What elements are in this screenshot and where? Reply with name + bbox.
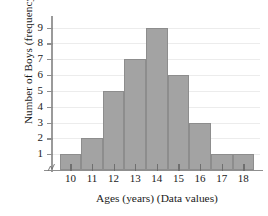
y-axis-tick — [47, 28, 53, 29]
y-axis-tick-label: 2 — [29, 132, 43, 143]
x-axis-tick — [178, 164, 179, 171]
histogram-bar — [189, 123, 211, 171]
x-axis-tick-label: 14 — [146, 173, 168, 184]
x-axis-tick-label: 13 — [124, 173, 146, 184]
y-axis-tick — [47, 59, 53, 60]
x-axis-tick — [135, 164, 136, 171]
x-axis-tick — [157, 164, 158, 171]
histogram-bar — [124, 59, 146, 170]
x-axis-tick — [243, 164, 244, 171]
y-axis-tick-label: 4 — [29, 101, 43, 112]
y-axis-tick — [47, 138, 53, 139]
histogram-bar — [103, 91, 125, 170]
bars-layer — [52, 18, 260, 170]
plot-area — [52, 18, 260, 170]
y-axis-tick — [47, 91, 53, 92]
x-axis-tick — [200, 164, 201, 171]
x-axis-tick-label: 15 — [167, 173, 189, 184]
histogram-chart: Number of Boys (frequency) Ages (years) … — [0, 0, 268, 216]
x-axis-title: Ages (years) (Data values) — [52, 192, 262, 204]
x-axis-tick-label: 11 — [81, 173, 103, 184]
y-axis-tick-label: 5 — [29, 85, 43, 96]
y-axis-tick — [47, 75, 53, 76]
y-axis-tick-label: 8 — [29, 37, 43, 48]
x-axis-tick — [114, 164, 115, 171]
y-axis-tick-label: 3 — [29, 117, 43, 128]
y-axis-tick — [47, 107, 53, 108]
x-axis-tick-label: 16 — [189, 173, 211, 184]
y-axis-tick — [47, 123, 53, 124]
histogram-bar — [146, 28, 168, 171]
x-axis-tick-label: 17 — [211, 173, 233, 184]
y-axis-tick-label: 7 — [29, 53, 43, 64]
x-axis-tick-label: 12 — [103, 173, 125, 184]
y-axis-tick-label: 6 — [29, 69, 43, 80]
x-axis-tick-label: 10 — [59, 173, 81, 184]
y-axis-tick — [47, 43, 53, 44]
y-axis-tick-label: 1 — [29, 148, 43, 159]
x-axis-tick-label: 18 — [232, 173, 254, 184]
x-axis-tick — [92, 164, 93, 171]
y-axis-tick — [47, 154, 53, 155]
histogram-bar — [168, 75, 190, 170]
x-axis-tick — [70, 164, 71, 171]
y-axis-tick-label: 9 — [29, 22, 43, 33]
x-axis-tick — [222, 164, 223, 171]
